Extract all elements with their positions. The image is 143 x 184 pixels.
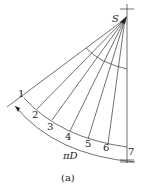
inner-arc — [24, 98, 127, 147]
point-label-4: 4 — [65, 131, 71, 142]
ray-2 — [37, 19, 125, 109]
point-label-6: 6 — [103, 142, 109, 153]
point-label-1: 1 — [18, 88, 24, 99]
point-label-7: 7 — [128, 146, 134, 157]
caption: (a) — [61, 172, 75, 183]
ray-5 — [88, 19, 125, 139]
point-label-5: 5 — [85, 138, 91, 149]
ray-3 — [52, 19, 125, 120]
ray-4 — [70, 19, 125, 131]
point-label-2: 2 — [32, 109, 38, 120]
apex-label: S — [112, 13, 119, 24]
ray-6 — [108, 19, 125, 144]
development-diagram: S 1 2 3 4 5 6 7 πD (a) — [0, 0, 143, 184]
point-label-3: 3 — [47, 121, 53, 132]
arc-label: πD — [62, 150, 78, 161]
